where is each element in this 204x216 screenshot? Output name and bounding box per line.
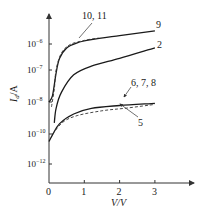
- y-tick-label: 10−8: [27, 96, 42, 107]
- y-tick-label: 10−6: [27, 38, 42, 49]
- label-2: 2: [157, 39, 162, 50]
- y-ticks: 10−610−710−810−1010−12: [27, 38, 52, 169]
- x-axis-label: V/V: [111, 197, 128, 208]
- x-tick-label: 3: [152, 186, 157, 197]
- label-9: 9: [156, 19, 161, 30]
- label-10-11: 10, 11: [82, 10, 107, 21]
- y-tick-label: 10−12: [27, 158, 45, 169]
- y-tick-label: 10−7: [27, 64, 42, 75]
- leader-5: [120, 104, 138, 117]
- y-axis-label-unit: /A: [8, 84, 19, 95]
- y-axis-label: Id/A: [8, 84, 21, 103]
- label-5: 5: [138, 117, 143, 128]
- label-6-7-8: 6, 7, 8: [131, 77, 156, 88]
- x-tick-label: 1: [81, 186, 86, 197]
- y-tick-label: 10−10: [27, 128, 45, 139]
- curve-9: [49, 31, 155, 102]
- leader-10-11: [79, 23, 92, 38]
- x-tick-label: 0: [46, 186, 51, 197]
- curve-10-11: [52, 38, 99, 107]
- leader-6-7-8: [124, 87, 131, 97]
- x-tick-label: 2: [117, 186, 122, 197]
- iv-curve-chart: 0123 10−610−710−810−1010−12 10, 11 9 2 6…: [0, 0, 204, 216]
